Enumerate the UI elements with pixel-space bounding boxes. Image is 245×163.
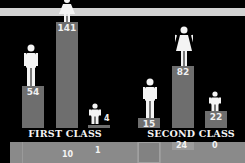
bar-second-children: 22: [205, 111, 227, 128]
value-label: 22: [205, 112, 227, 122]
strip-box: [138, 142, 160, 163]
strip-value: 0: [212, 141, 218, 150]
woman-icon: [175, 26, 193, 66]
bar-second-women: 82: [172, 66, 194, 128]
man-icon: [143, 78, 157, 118]
bar-second-men: 15: [138, 118, 160, 128]
bottom-strip: [10, 142, 245, 163]
horizontal-band: [0, 8, 245, 16]
child-icon: [89, 103, 101, 124]
man-icon: [24, 44, 38, 86]
strip-divider: [160, 142, 161, 163]
strip-value: 24: [176, 141, 187, 150]
woman-icon: [58, 0, 76, 22]
value-label: 82: [172, 67, 194, 77]
strip-value: 1: [95, 146, 101, 155]
category-label-first-class: FIRST CLASS: [20, 128, 110, 139]
category-label-second-class: SECOND CLASS: [136, 128, 245, 139]
value-label: 141: [56, 23, 78, 33]
child-icon: [209, 91, 221, 111]
bar-first-men: 54: [22, 86, 44, 128]
bar-first-women: 141: [56, 22, 78, 128]
strip-divider: [22, 142, 23, 163]
strip-value: 10: [62, 150, 73, 159]
value-label: 4: [104, 114, 110, 123]
value-label: 54: [22, 87, 44, 97]
